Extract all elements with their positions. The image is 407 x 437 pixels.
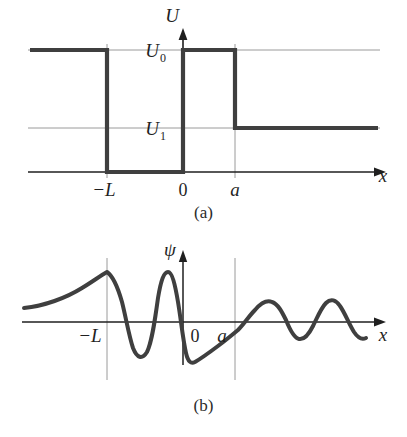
level-label-u0-subscript: 0 xyxy=(160,51,166,65)
psi-axis-arrow xyxy=(179,250,187,262)
panel-a-potential-diagram: U x U 0 U 1 −L 0 a xyxy=(0,0,407,200)
level-label-u0: U xyxy=(145,40,160,61)
x-axis-label-b: x xyxy=(378,324,388,345)
x-axis-label-a: x xyxy=(378,165,388,186)
level-label-u1: U xyxy=(145,118,160,139)
level-label-u1-subscript: 1 xyxy=(160,129,166,143)
xtick-zero-b: 0 xyxy=(191,326,200,346)
physics-figure: U x U 0 U 1 −L 0 a (a) ψ x −L 0 a (b) xyxy=(0,0,407,437)
xtick-minus-l-b: −L xyxy=(78,325,101,346)
potential-profile-curve xyxy=(30,50,378,172)
u-axis-arrow xyxy=(179,28,188,40)
xtick-a-a: a xyxy=(230,179,240,200)
xtick-minus-l-a: −L xyxy=(92,179,115,200)
panel-b-wavefunction-diagram: ψ x −L 0 a xyxy=(0,240,407,400)
panel-b-caption: (b) xyxy=(0,396,407,416)
wavefunction-curve xyxy=(24,272,366,363)
xtick-a-b: a xyxy=(217,325,227,346)
psi-axis-label: ψ xyxy=(164,240,177,260)
u-axis-label: U xyxy=(165,5,180,26)
xtick-zero-a: 0 xyxy=(179,180,188,200)
panel-a-caption: (a) xyxy=(0,203,407,223)
